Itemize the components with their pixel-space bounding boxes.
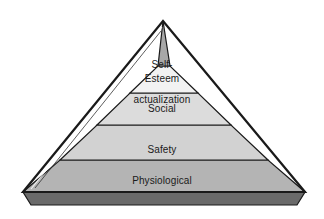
pyramid-tier-safety [60,125,268,160]
pyramid-base-slab [23,192,305,205]
pyramid-tier-esteem [130,66,198,93]
pyramid-shape [0,0,324,219]
pyramid-diagram: Self- actualization Esteem Social Safety… [0,0,324,219]
pyramid-tier-physiological [23,160,305,192]
pyramid-tier-social [97,93,231,125]
